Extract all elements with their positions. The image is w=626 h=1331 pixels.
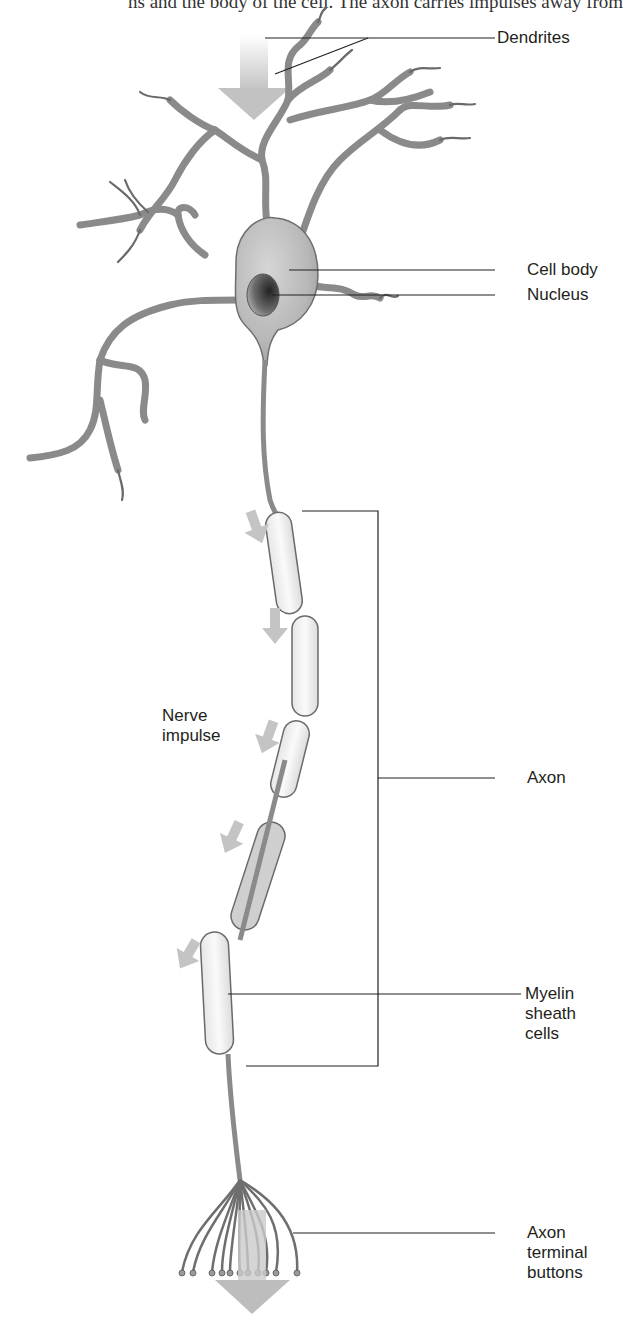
label-terminal-line3: buttons [527,1263,587,1283]
label-axon-terminal-buttons: Axon terminal buttons [527,1223,587,1283]
axon-distal [228,1054,240,1180]
label-myelin-line2: sheath [525,1004,576,1024]
label-nerve-impulse-line2: impulse [162,726,221,746]
label-nerve-impulse: Nerve impulse [162,706,221,746]
axon-hillock [263,360,282,522]
label-dendrites: Dendrites [497,28,570,48]
label-terminal-line1: Axon [527,1223,587,1243]
outgoing-impulse-arrow [215,1210,290,1314]
label-nerve-impulse-line1: Nerve [162,706,221,726]
label-myelin-sheath-cells: Myelin sheath cells [525,984,576,1044]
label-myelin-line3: cells [525,1024,576,1044]
label-myelin-line1: Myelin [525,984,576,1004]
label-cell-body: Cell body [527,260,598,280]
incoming-impulse-arrow [218,35,290,120]
label-terminal-line2: terminal [527,1243,587,1263]
neuron-diagram [0,0,626,1331]
label-axon: Axon [527,768,566,788]
myelin-sheaths [200,511,318,1055]
label-nucleus: Nucleus [527,285,588,305]
